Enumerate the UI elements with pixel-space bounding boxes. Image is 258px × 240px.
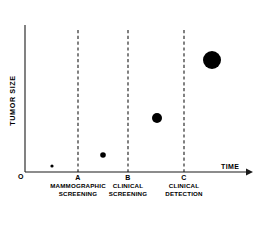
marker-letter-c: C <box>181 174 186 181</box>
marker-caption-a: MAMMOGRAPHIC SCREENING <box>50 182 106 197</box>
marker-caption-c: CLINICAL DETECTION <box>165 182 203 197</box>
data-point <box>50 164 53 167</box>
data-point <box>152 113 162 123</box>
data-point <box>203 51 221 69</box>
x-axis-title: TIME <box>221 163 239 170</box>
x-axis-arrow-icon <box>246 168 253 175</box>
data-point <box>100 152 106 158</box>
marker-caption-b: CLINICAL SCREENING <box>109 182 148 197</box>
marker-caption-c-line1: CLINICAL <box>165 182 203 190</box>
origin-label: O <box>18 173 24 180</box>
y-axis-title: TUMOR SIZE <box>8 71 17 131</box>
marker-caption-b-line2: SCREENING <box>109 190 148 198</box>
marker-caption-c-line2: DETECTION <box>165 190 203 198</box>
marker-caption-a-line1: MAMMOGRAPHIC <box>50 182 106 190</box>
marker-caption-a-line2: SCREENING <box>50 190 106 198</box>
marker-letter-a: A <box>75 174 80 181</box>
marker-letter-b: B <box>125 174 130 181</box>
marker-caption-b-line1: CLINICAL <box>109 182 148 190</box>
